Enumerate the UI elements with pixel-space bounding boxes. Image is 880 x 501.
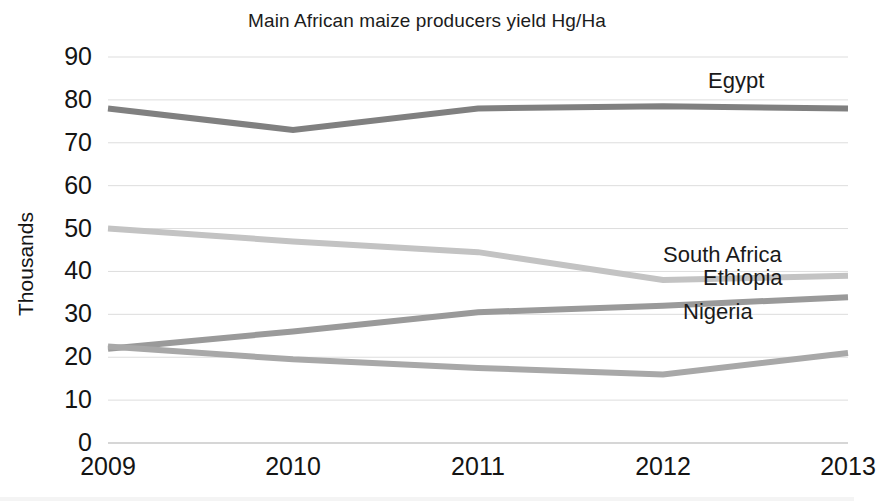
series-line-nigeria bbox=[108, 347, 848, 375]
x-tick-label: 2012 bbox=[603, 452, 723, 480]
series-lines bbox=[108, 106, 848, 374]
x-tick-label: 2010 bbox=[233, 452, 353, 480]
bottom-edge bbox=[0, 497, 854, 501]
series-label-ethiopia: Ethiopia bbox=[703, 267, 783, 289]
x-tick-label: 2013 bbox=[788, 452, 880, 480]
series-label-egypt: Egypt bbox=[708, 70, 764, 92]
series-label-nigeria: Nigeria bbox=[683, 301, 753, 323]
series-line-egypt bbox=[108, 106, 848, 130]
series-label-south-africa: South Africa bbox=[663, 244, 782, 266]
x-tick-label: 2009 bbox=[48, 452, 168, 480]
x-tick-label: 2011 bbox=[418, 452, 538, 480]
